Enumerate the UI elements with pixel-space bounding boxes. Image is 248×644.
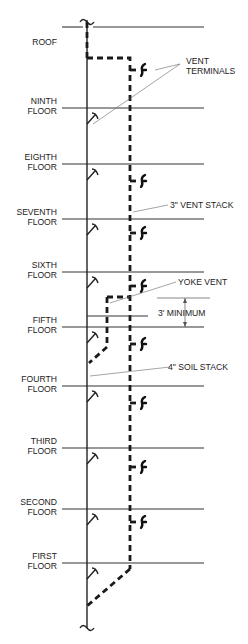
- yoke-vent: [89, 297, 130, 363]
- floor-label-line1: FIRST: [32, 551, 58, 561]
- floor-label-line2: FLOOR: [27, 162, 57, 172]
- yoke-vent-label: YOKE VENT: [178, 277, 228, 287]
- floor-label-line2: FLOOR: [27, 561, 57, 571]
- vent-terminals-label-line1: VENT: [186, 56, 210, 66]
- floor-label-line2: FLOOR: [27, 384, 57, 394]
- floor-label-line2: FLOOR: [27, 270, 57, 280]
- fixture-trap-icon: [87, 453, 98, 464]
- floor-lines: [62, 27, 204, 563]
- vent-terminal-icon: [141, 280, 146, 292]
- floor-label-line1: SIXTH: [32, 260, 57, 270]
- floor-labels: ROOFNINTHFLOOREIGHTHFLOORSEVENTHFLOORSIX…: [16, 37, 57, 571]
- dimension-arrow-top-icon: [183, 298, 187, 303]
- fixture-trap-icon: [87, 332, 98, 343]
- floor-label-line2: FLOOR: [27, 325, 57, 335]
- floor-label-line1: EIGHTH: [25, 152, 57, 162]
- fixture-trap-icon: [87, 514, 98, 525]
- plumbing-riser-diagram: ROOFNINTHFLOOREIGHTHFLOORSEVENTHFLOORSIX…: [0, 0, 248, 644]
- floor-label-line1: SECOND: [20, 497, 57, 507]
- vent-terminal-icon: [141, 64, 146, 76]
- vent-terminal-icon: [141, 175, 146, 187]
- floor-label-line2: FLOOR: [27, 507, 57, 517]
- vent-terminal-icon: [141, 461, 146, 473]
- floor-label-line1: NINTH: [31, 96, 57, 106]
- vent-terminal-icon: [141, 397, 146, 409]
- floor-label-line1: ROOF: [32, 37, 57, 47]
- vent-terminals-label-line2: TERMINALS: [186, 66, 235, 76]
- floor-label-line1: THIRD: [31, 436, 57, 446]
- fixture-trap-icon: [87, 224, 98, 235]
- floor-label-line2: FLOOR: [27, 446, 57, 456]
- three-foot-minimum-label: 3' MINIMUM: [158, 308, 205, 318]
- vent-stack-label: 3" VENT STACK: [170, 200, 234, 210]
- fixture-trap-icon: [87, 277, 98, 288]
- floor-label-line1: SEVENTH: [16, 207, 57, 217]
- floor-label-line2: FLOOR: [27, 106, 57, 116]
- vent-stack-header: [87, 58, 130, 569]
- floor-label-line1: FOURTH: [21, 374, 57, 384]
- vent-terminal-icon: [141, 227, 146, 239]
- vent-terminal-icon: [141, 516, 146, 528]
- soil-stack-label: 4" SOIL STACK: [168, 362, 228, 372]
- vent-terminal-icon: [141, 338, 146, 350]
- floor-label-line1: FIFTH: [33, 315, 57, 325]
- dimension-arrow-bottom-icon: [183, 322, 187, 327]
- floor-label-line2: FLOOR: [27, 217, 57, 227]
- fixture-trap-icon: [87, 113, 98, 124]
- fixture-trap-icon: [87, 568, 98, 579]
- vent-stack-leader: [133, 205, 168, 212]
- vent-stack-base-offset: [87, 569, 130, 606]
- fixture-trap-icon: [87, 169, 98, 180]
- vent-terminals-leader: [93, 64, 180, 124]
- fixture-trap-icon: [87, 391, 98, 402]
